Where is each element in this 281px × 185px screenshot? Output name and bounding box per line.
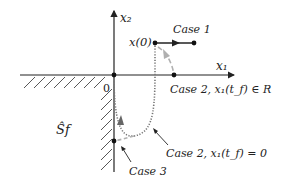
x1-axis-label: x₁: [216, 59, 228, 73]
trajectory-case3: [114, 136, 134, 141]
origin-point: [112, 73, 117, 78]
x2-axis-label: x₂: [120, 11, 132, 25]
case1-end-point: [192, 41, 197, 46]
case2-R-end-point: [172, 73, 177, 78]
pointer-case3: [123, 149, 131, 162]
case1-label: Case 1: [173, 23, 211, 36]
arrow-case2-R: [163, 49, 170, 59]
origin-label: 0: [103, 82, 110, 95]
trajectory-case2-R: [158, 47, 174, 75]
phase-portrait-diagram: x₁ x₂ 0 Ŝf x(0) Case 1 Case 2, x₁(t_f) ∈…: [0, 0, 281, 185]
case3-end-point: [112, 139, 117, 144]
initial-state-label: x(0): [129, 35, 152, 49]
pointer-case3-head: [121, 146, 126, 151]
region-label-sf: Ŝf: [56, 121, 72, 137]
hatch-horizontal: [24, 77, 105, 88]
arrow-case2-zero: [117, 115, 124, 125]
hatch-vertical: [101, 89, 112, 170]
case2-R-label: Case 2, x₁(t_f) ∈ R: [170, 83, 271, 96]
case2-zero-label: Case 2, x₁(t_f) = 0: [166, 147, 267, 160]
pointer-case2-zero: [155, 131, 168, 145]
case3-label: Case 3: [129, 165, 167, 178]
initial-state-point: [153, 41, 158, 46]
arrow-case1: [172, 40, 180, 47]
